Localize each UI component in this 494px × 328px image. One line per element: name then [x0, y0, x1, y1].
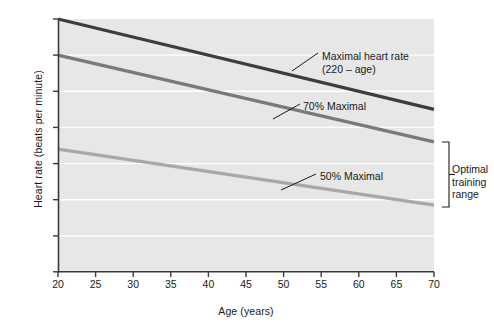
annotation-maximal-heart-rate: Maximal heart rate (220 – age) — [322, 50, 409, 75]
annotation-maximal-line1: Maximal heart rate — [322, 50, 409, 63]
annotation-maximal-line2: (220 – age) — [322, 63, 409, 76]
y-axis-ticks — [53, 19, 58, 272]
x-tick-70: 70 — [419, 278, 449, 290]
chart-figure: Heart rate (beats per minute) Age (years… — [0, 0, 494, 328]
x-tick-30: 30 — [118, 278, 148, 290]
annotation-range-line3: range — [452, 188, 494, 201]
x-tick-20: 20 — [43, 278, 73, 290]
x-tick-25: 25 — [81, 278, 111, 290]
x-tick-55: 55 — [306, 278, 336, 290]
x-tick-50: 50 — [269, 278, 299, 290]
x-tick-60: 60 — [344, 278, 374, 290]
annotation-range-line1: Optimal — [452, 163, 494, 176]
x-tick-40: 40 — [193, 278, 223, 290]
x-tick-45: 45 — [231, 278, 261, 290]
x-tick-35: 35 — [156, 278, 186, 290]
x-axis-title: Age (years) — [58, 305, 434, 317]
y-axis-title: Heart rate (beats per minute) — [32, 39, 44, 239]
annotation-optimal-training-range: Optimal training range — [452, 163, 494, 201]
annotation-50-percent-maximal: 50% Maximal — [320, 170, 383, 183]
annotation-range-line2: training — [452, 176, 494, 189]
annotation-70-percent-maximal: 70% Maximal — [303, 100, 366, 113]
x-tick-65: 65 — [381, 278, 411, 290]
